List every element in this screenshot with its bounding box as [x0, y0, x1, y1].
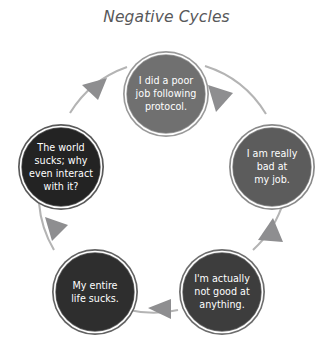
cycle-node-left[interactable]: The world sucks; why even interact with … — [18, 124, 104, 210]
cycle-node-top-label: protocol. — [145, 101, 187, 112]
cycle-node-bottom-left-label: life sucks. — [71, 293, 119, 304]
arrowhead-bottom-right-to-bottom-left — [148, 299, 171, 319]
cycle-node-bottom-right-label: I'm actually — [194, 273, 250, 284]
cycle-nodes: I did a poor job following protocol. I a… — [18, 51, 315, 335]
cycle-node-bottom-right-label: anything. — [199, 299, 244, 310]
arrowhead-left-to-top — [82, 78, 107, 100]
cycle-node-right-label: bad at — [257, 161, 288, 172]
arrowhead-top-to-right — [208, 85, 233, 112]
cycle-node-left-body — [22, 128, 100, 206]
cycle-node-left-label: The world — [36, 142, 84, 153]
cycle-node-right-label: I am really — [247, 148, 298, 159]
cycle-node-left-label: even interact — [29, 168, 93, 179]
cycle-node-left-label: with it? — [44, 181, 79, 192]
cycle-node-right-label: my job. — [254, 174, 290, 185]
cycle-node-right[interactable]: I am really bad at my job. — [229, 124, 315, 210]
cycle-node-bottom-right[interactable]: I'm actually not good at anything. — [179, 249, 265, 335]
cycle-node-top-label: job following — [135, 88, 197, 99]
cycle-node-top[interactable]: I did a poor job following protocol. — [123, 51, 209, 137]
cycle-node-bottom-left-label: My entire — [72, 280, 117, 291]
arrowhead-right-to-bottom-right — [258, 218, 283, 242]
cycle-node-bottom-right-label: not good at — [194, 286, 250, 297]
cycle-diagram-canvas: I did a poor job following protocol. I a… — [0, 0, 333, 360]
cycle-node-bottom-left-body — [56, 253, 134, 331]
cycle-node-top-label: I did a poor — [139, 75, 194, 86]
cycle-diagram: Negative Cycles I did a poor — [0, 0, 333, 360]
cycle-node-left-label: sucks; why — [35, 155, 88, 166]
cycle-node-bottom-left[interactable]: My entire life sucks. — [52, 249, 138, 335]
